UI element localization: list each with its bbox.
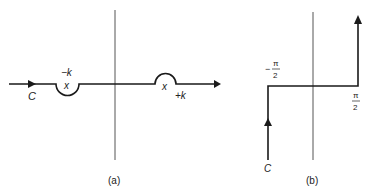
- contour-label-b: C: [264, 163, 272, 174]
- svg-text:π: π: [273, 59, 279, 68]
- contour-label-a: C: [28, 90, 36, 102]
- end-arrow-icon: [214, 80, 221, 88]
- caption-a: (a): [108, 175, 120, 186]
- direction-arrow-icon: [28, 80, 36, 88]
- figure-a: C −k x x +k (a): [9, 10, 221, 186]
- up-arrow-icon: [264, 118, 272, 126]
- right-label-pi-over-2: π 2: [352, 91, 360, 112]
- svg-text:π: π: [353, 91, 359, 100]
- figure-b: C − π 2 π 2 (b): [264, 12, 362, 186]
- svg-text:2: 2: [353, 103, 358, 112]
- contour-diagrams: C −k x x +k (a) C − π 2 π 2 (b): [0, 0, 371, 195]
- caption-b: (b): [306, 175, 318, 186]
- left-label-neg-pi-over-2: − π 2: [265, 59, 280, 80]
- svg-text:2: 2: [273, 71, 278, 80]
- svg-text:−: −: [265, 64, 270, 74]
- pole-left-label: −k: [61, 67, 73, 78]
- pole-right-marker: x: [161, 81, 168, 92]
- end-arrow-icon: [354, 15, 362, 24]
- pole-right-label: +k: [175, 90, 187, 101]
- pole-left-marker: x: [63, 80, 70, 91]
